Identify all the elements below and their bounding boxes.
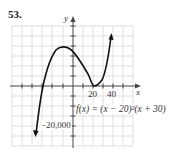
x-tick-label-20: 20 <box>88 89 97 99</box>
y-axis-label: y <box>64 13 68 23</box>
function-label: f(x) = (x − 20)²(x + 30) <box>76 104 166 114</box>
x-tick-label-40: 40 <box>107 89 116 99</box>
function-graph <box>0 0 177 155</box>
x-axis-label: x <box>136 87 140 97</box>
y-tick-label-neg-20000: −20,000 <box>40 120 72 130</box>
y-axis-arrow-icon <box>71 16 76 22</box>
axes <box>10 20 138 148</box>
